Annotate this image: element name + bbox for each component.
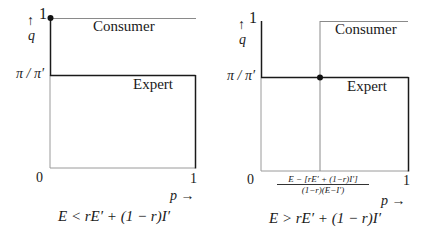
left-x-axis-label: p →: [170, 188, 195, 204]
right-x-threshold-denominator: (1−r)(E−I′): [277, 185, 369, 195]
left-region-consumer: Consumer: [93, 18, 155, 35]
left-region-expert: Expert: [133, 76, 173, 93]
left-y-tick-top: 1: [39, 5, 47, 23]
left-equilibrium-dot: [48, 15, 54, 21]
right-region-consumer: Consumer: [335, 21, 397, 38]
right-y-arrow-icon: ↑: [238, 17, 245, 33]
right-condition: E > rE′ + (1 − r)I′: [269, 210, 381, 227]
right-region-expert: Expert: [347, 78, 387, 95]
left-y-tick-mid: π / π′: [16, 66, 44, 82]
left-x-tick-zero: 0: [36, 170, 43, 186]
left-y-axis-label: q: [28, 28, 35, 44]
left-y-arrow-icon: ↑: [27, 13, 34, 29]
left-x-tick-one: 1: [190, 171, 197, 187]
right-equilibrium-dot: [317, 75, 323, 81]
right-y-tick-mid: π / π′: [227, 68, 255, 84]
left-panel-lines: [48, 15, 197, 169]
right-y-axis-label: q: [239, 32, 246, 48]
right-x-tick-zero: 0: [247, 172, 254, 188]
right-y-tick-top: 1: [249, 9, 257, 27]
right-x-tick-one: 1: [403, 173, 410, 189]
right-x-threshold-fraction: E − [rE′ + (1−r)I′] (1−r)(E−I′): [277, 174, 369, 195]
right-x-threshold-numerator: E − [rE′ + (1−r)I′]: [277, 174, 369, 185]
right-panel-lines: [261, 21, 409, 172]
left-condition: E < rE′ + (1 − r)I′: [58, 208, 170, 225]
right-x-axis-label: p →: [381, 193, 406, 209]
